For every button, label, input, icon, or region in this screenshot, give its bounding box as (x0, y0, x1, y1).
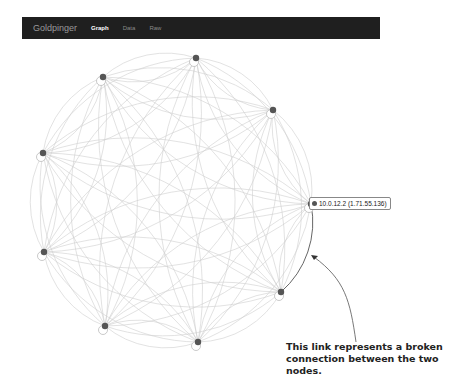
graph-node[interactable] (99, 323, 109, 335)
node-dot-icon (278, 289, 284, 295)
graph-link (103, 58, 196, 82)
graph-link (44, 252, 105, 326)
graph-link (43, 77, 103, 153)
graph-link (44, 58, 196, 252)
node-dot-icon (270, 107, 276, 113)
annotation-line-1: This link represents a broken (286, 341, 469, 353)
graph-link (44, 110, 273, 252)
graph-node[interactable] (97, 74, 107, 86)
graph-link (43, 153, 57, 252)
graph-link (43, 153, 108, 326)
graph-link (273, 110, 312, 204)
graph-link (30, 153, 44, 252)
graph-link (103, 53, 196, 77)
graph-link (105, 320, 198, 342)
graph-link (279, 204, 311, 292)
graph-link (43, 138, 311, 204)
graph-node[interactable] (192, 339, 202, 351)
node-dot-icon (195, 339, 201, 345)
graph-link (44, 252, 281, 307)
graph-link (43, 153, 281, 292)
graph-node[interactable] (38, 249, 48, 261)
annotation-line-2: connection between the two nodes. (286, 353, 469, 377)
graph-link (196, 58, 285, 292)
graph-link (43, 153, 311, 219)
node-dot-icon (40, 150, 46, 156)
node-dot-icon (102, 323, 108, 329)
graph-link (44, 252, 105, 326)
node-status-icon (312, 201, 317, 206)
graph-link (196, 58, 311, 204)
graph-link (44, 77, 107, 252)
node-dot-icon (41, 249, 47, 255)
node-label-text: 10.0.12.2 (1.71.55.136) (319, 200, 387, 207)
graph-links (30, 53, 313, 348)
node-tooltip[interactable]: 10.0.12.2 (1.71.55.136) (309, 197, 391, 210)
graph-link (103, 77, 311, 204)
graph-link (44, 110, 273, 252)
annotation-arrow (311, 255, 356, 342)
node-dot-icon (193, 55, 199, 61)
annotation-text: This link represents a broken connection… (286, 341, 469, 377)
graph-link (196, 58, 311, 204)
graph-link (43, 97, 273, 153)
node-dot-icon (100, 74, 106, 80)
graph-link (44, 58, 196, 252)
graph-node[interactable] (37, 150, 47, 162)
network-graph (0, 0, 469, 388)
graph-link (44, 204, 311, 268)
broken-link (281, 204, 313, 292)
graph-link (43, 153, 281, 292)
graph-link (43, 77, 103, 153)
graph-link (103, 77, 311, 204)
